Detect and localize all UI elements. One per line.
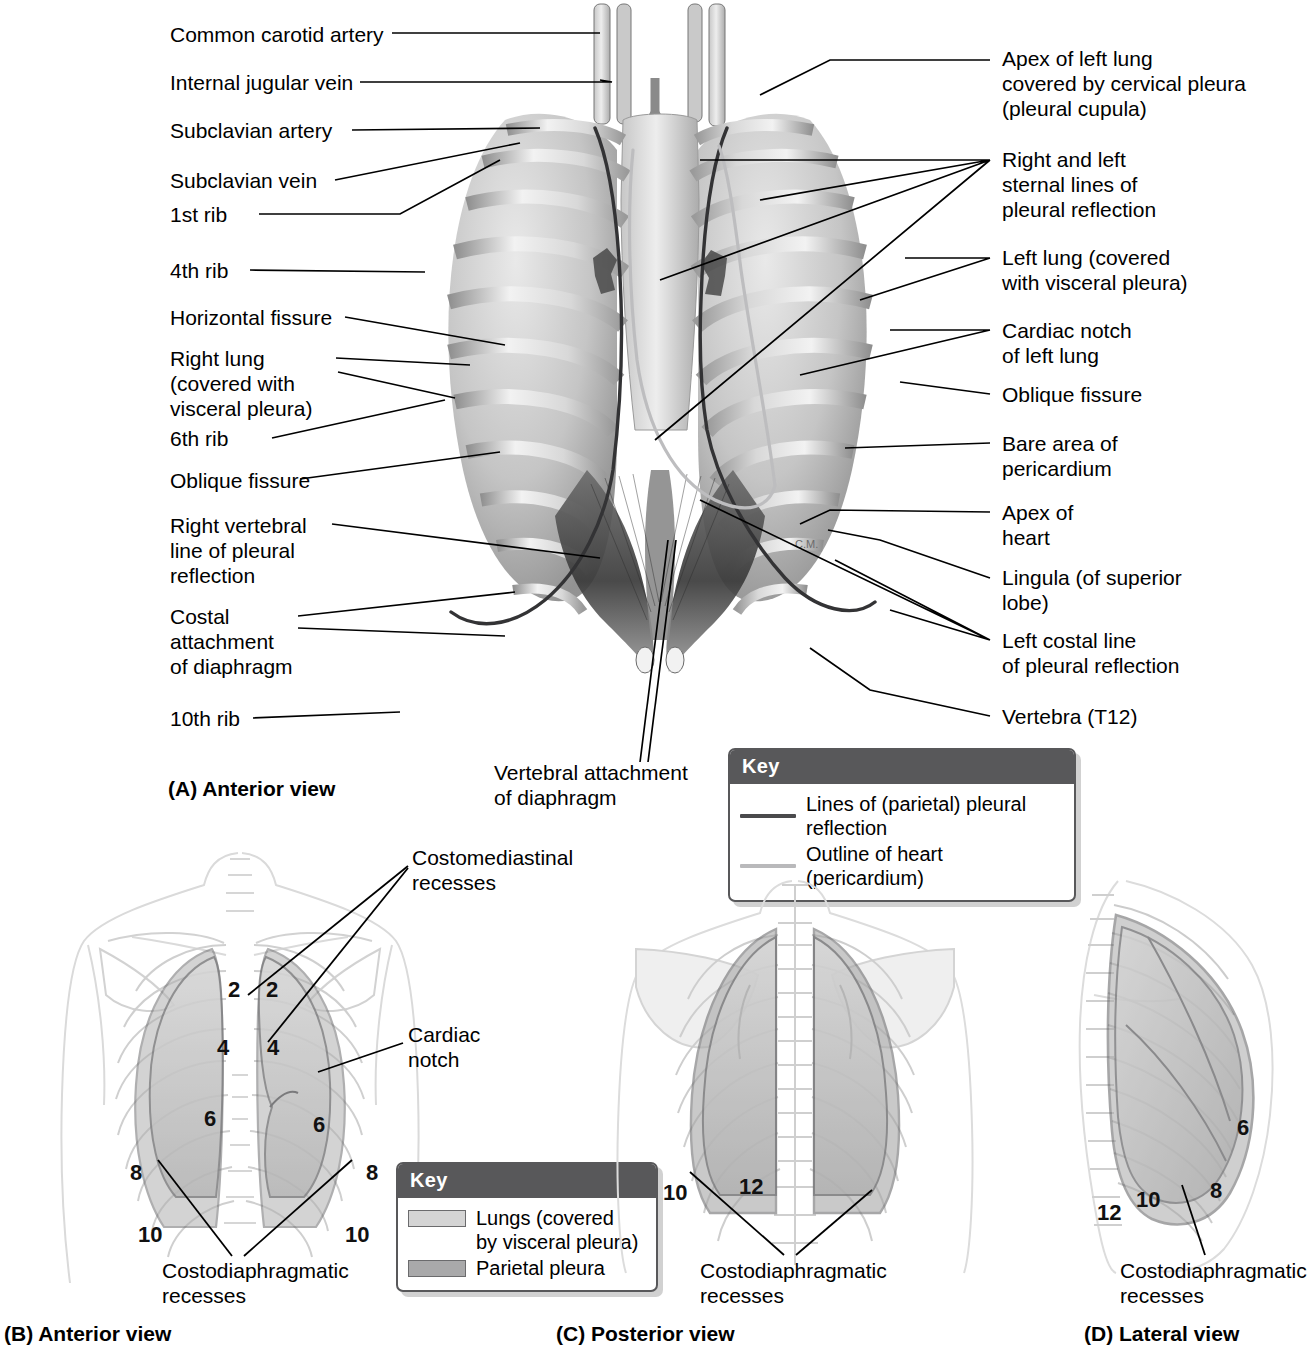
spine-ghost-c [772,885,818,1265]
caption-panel-c: (C) Posterior view [556,1322,735,1346]
artist-initials: C.M. [795,538,818,550]
rib-number-c-1: 12 [739,1174,763,1200]
panel-c-illustration [600,875,990,1275]
caption-panel-a: (A) Anterior view [168,777,335,801]
rib-number-d-1: 8 [1210,1178,1222,1204]
key-panel-a-title: Key [730,750,1074,784]
lungs-swatch [408,1210,466,1227]
rib-number-b-8: 10 [138,1222,162,1248]
label-6th-rib: 6th rib [170,426,228,451]
caption-panel-d: (D) Lateral view [1084,1322,1239,1346]
panel-b-illustration [40,845,440,1285]
rib-number-b-7: 8 [366,1160,378,1186]
label-costal-attachment-diaphragm: Costal attachment of diaphragm [170,604,293,679]
rib-number-b-3: 4 [267,1035,279,1061]
label-subclavian-artery: Subclavian artery [170,118,332,143]
label-left-costal-line: Left costal line of pleural reflection [1002,628,1179,678]
label-vertebral-attachment-diaphragm: Vertebral attachment of diaphragm [494,760,688,810]
caption-panel-b: (B) Anterior view [4,1322,171,1346]
label-right-vertebral-line: Right vertebral line of pleural reflecti… [170,513,307,588]
label-apex-of-left-lung: Apex of left lung covered by cervical pl… [1002,46,1246,121]
label-1st-rib: 1st rib [170,202,227,227]
label-costodiaphragmatic-recesses-d: Costodiaphragmatic recesses [1120,1258,1307,1308]
label-oblique-fissure-left: Oblique fissure [1002,382,1142,407]
panel-d-illustration [1030,875,1300,1275]
label-4th-rib: 4th rib [170,258,228,283]
label-common-carotid-artery: Common carotid artery [170,22,384,47]
panel-a-illustration: C.M. [355,0,965,760]
label-costomediastinal-recesses: Costomediastinal recesses [412,845,573,895]
label-costodiaphragmatic-recesses-b: Costodiaphragmatic recesses [162,1258,349,1308]
key-panel-a-item-0: Lines of (parietal) pleural reflection [740,792,1064,840]
key-panel-b-item-1-label: Parietal pleura [476,1256,605,1280]
rib-number-b-0: 2 [228,977,240,1003]
rib-number-b-2: 4 [217,1035,229,1061]
label-sternal-lines-pleural-reflection: Right and left sternal lines of pleural … [1002,147,1156,222]
label-subclavian-vein: Subclavian vein [170,168,317,193]
key-panel-a-item-0-label: Lines of (parietal) pleural reflection [806,792,1064,840]
label-right-lung: Right lung (covered with visceral pleura… [170,346,312,421]
rib-number-b-4: 6 [204,1106,216,1132]
label-cardiac-notch-left-lung: Cardiac notch of left lung [1002,318,1132,368]
rib-number-d-3: 12 [1097,1200,1121,1226]
body-outline-b [61,853,418,1283]
label-internal-jugular-vein: Internal jugular vein [170,70,353,95]
rib-number-d-0: 6 [1237,1115,1249,1141]
rib-number-b-5: 6 [313,1112,325,1138]
label-10th-rib: 10th rib [170,706,240,731]
label-oblique-fissure-right: Oblique fissure [170,468,310,493]
rib-number-b-9: 10 [345,1222,369,1248]
pleural-reflection-line-swatch [740,814,796,818]
parietal-pleura-swatch [408,1260,466,1277]
label-left-lung: Left lung (covered with visceral pleura) [1002,245,1188,295]
label-bare-area-pericardium: Bare area of pericardium [1002,431,1118,481]
label-apex-of-heart: Apex of heart [1002,500,1073,550]
rib-number-b-1: 2 [266,977,278,1003]
label-vertebra-t12: Vertebra (T12) [1002,704,1137,729]
label-lingula: Lingula (of superior lobe) [1002,565,1182,615]
label-horizontal-fissure: Horizontal fissure [170,305,332,330]
label-costodiaphragmatic-recesses-c: Costodiaphragmatic recesses [700,1258,887,1308]
lung-d [1115,927,1242,1203]
rib-number-b-6: 8 [130,1160,142,1186]
rib-number-c-0: 10 [663,1180,687,1206]
label-cardiac-notch-b: Cardiac notch [408,1022,480,1072]
pericardium-line-swatch [740,864,796,868]
rib-number-d-2: 10 [1136,1187,1160,1213]
